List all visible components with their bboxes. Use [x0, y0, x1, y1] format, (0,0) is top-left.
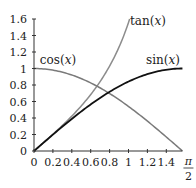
tan-curve — [34, 19, 130, 151]
x-tick-label: 0 — [31, 156, 38, 169]
sin-curve — [34, 69, 182, 152]
x-tick-label: 1.4 — [158, 156, 176, 169]
tan-label: tan(x) — [130, 14, 166, 28]
y-tick-label: 0.6 — [10, 96, 28, 109]
y-tick-label: 1.2 — [10, 46, 28, 59]
x-end-denominator: 2 — [185, 170, 192, 183]
x-tick-label: 0.6 — [82, 156, 100, 169]
x-axis-end-label: π 2 — [183, 155, 193, 183]
x-tick-label: 0.2 — [44, 156, 62, 169]
x-tick-label: 0.8 — [101, 156, 119, 169]
y-tick-label: 0.4 — [10, 112, 28, 125]
x-end-numerator: π — [184, 155, 193, 168]
cos-curve — [34, 69, 182, 152]
x-tick-label: 1 — [125, 156, 132, 169]
y-tick-label: 1 — [20, 63, 27, 76]
trig-chart: 00.20.40.60.811.21.4 00.20.40.60.811.21.… — [0, 0, 196, 188]
x-tick-label: 1.2 — [139, 156, 157, 169]
cos-label: cos(x) — [40, 53, 76, 67]
y-tick-label: 1.4 — [10, 30, 28, 43]
x-tick-label: 0.4 — [63, 156, 81, 169]
y-tick-label: 1.6 — [10, 13, 28, 26]
y-tick-label: 0.2 — [10, 129, 28, 142]
sin-label: sin(x) — [146, 53, 180, 67]
y-tick-label: 0 — [20, 145, 27, 158]
y-tick-label: 0.8 — [10, 79, 28, 92]
